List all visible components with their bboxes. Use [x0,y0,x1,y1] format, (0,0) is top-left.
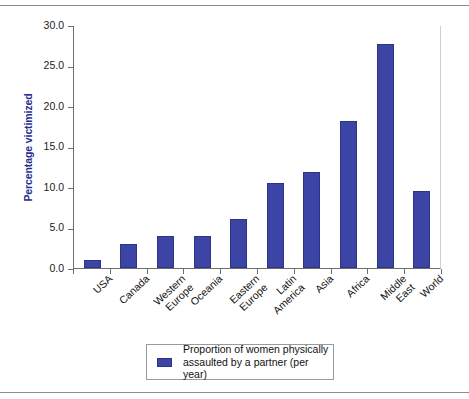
bar-slot [220,26,257,268]
bar-canada [120,244,137,268]
legend-label: Proportion of women physicallyassaulted … [183,343,333,381]
bar-usa [84,260,101,268]
x-axis-label-latin-america: LatinAmerica [263,273,307,316]
x-axis-label-canada: Canada [117,273,152,306]
y-axis-tick: 25.0 [0,67,73,68]
y-axis-tick: 5.0 [0,229,73,230]
chart-figure: Percentage victimized 30.025.020.015.010… [0,0,469,399]
x-axis-label-eastern-europe: EasternEurope [228,273,270,315]
y-axis-tick: 30.0 [0,26,73,27]
y-axis-tick-label: 20.0 [44,100,64,112]
bar-asia [303,172,320,268]
y-axis-tick-label: 5.0 [49,221,64,233]
x-axis-label-western-europe: WesternEurope [152,273,196,316]
x-axis-label-usa: USA [91,273,115,296]
bar-africa [340,121,357,268]
y-axis-tick: 10.0 [0,188,73,189]
bar-world [413,191,430,268]
top-divider-rule [0,5,469,6]
y-axis-tick: 20.0 [0,107,73,108]
y-axis-tick-label: 0.0 [49,262,64,274]
y-axis-tick: 15.0 [0,148,73,149]
y-axis-tick-label: 10.0 [44,181,64,193]
x-axis-label-asia: Asia [313,273,336,295]
bar-slot [367,26,404,268]
bar-oceania [194,236,211,268]
y-axis-tick: 0.0 [0,269,73,270]
bar-slot [74,26,111,268]
bar-slot [147,26,184,268]
bar-western-europe [157,236,174,268]
bar-slot [257,26,294,268]
bar-middle-east [377,44,394,268]
x-axis-label-middle-east: MiddleEast [379,273,417,311]
y-axis-ticks: 30.025.020.015.010.05.00.0 [0,26,73,269]
bar-latin-america [267,183,284,268]
x-axis-label-africa: Africa [345,273,372,300]
y-axis-tick-label: 15.0 [44,140,64,152]
bar-slot [403,26,440,268]
legend-color-swatch [157,358,172,367]
bar-slot [294,26,331,268]
y-axis-tick-label: 30.0 [44,19,64,31]
x-axis-tick-mark [441,269,442,274]
bar-slot [330,26,367,268]
bar-slot [111,26,148,268]
plot-area [73,26,441,269]
bar-eastern-europe [230,219,247,268]
bottom-divider-rule [0,392,469,393]
bar-series [74,26,440,268]
x-axis-labels: USACanadaWesternEuropeOceaniaEasternEuro… [73,273,441,333]
chart-legend: Proportion of women physicallyassaulted … [146,344,334,380]
x-axis-label-world: World [418,273,446,300]
bar-slot [184,26,221,268]
y-axis-tick-label: 25.0 [44,59,64,71]
